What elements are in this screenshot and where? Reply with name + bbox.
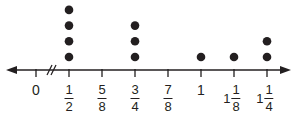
data-dot	[230, 53, 239, 62]
data-dot	[263, 53, 272, 62]
tick-label: 58	[98, 83, 107, 114]
dot-plot	[0, 0, 295, 121]
right-arrow-icon	[280, 66, 291, 74]
tick-label: 78	[164, 83, 173, 114]
tick-label: 118	[223, 83, 240, 114]
data-dot	[197, 53, 206, 62]
data-dot	[131, 21, 140, 30]
data-dot	[65, 6, 74, 15]
tick-label: 114	[256, 83, 273, 114]
left-arrow-icon	[6, 66, 17, 74]
data-dot	[65, 37, 74, 46]
tick-label: 34	[131, 83, 140, 114]
data-dot	[131, 53, 140, 62]
data-dots	[65, 6, 272, 62]
data-dot	[65, 21, 74, 30]
tick-label: 0	[32, 83, 40, 97]
tick-label: 12	[65, 83, 74, 114]
data-dot	[263, 37, 272, 46]
data-dot	[131, 37, 140, 46]
data-dot	[65, 53, 74, 62]
tick-label: 1	[197, 83, 205, 97]
number-line	[6, 65, 291, 75]
